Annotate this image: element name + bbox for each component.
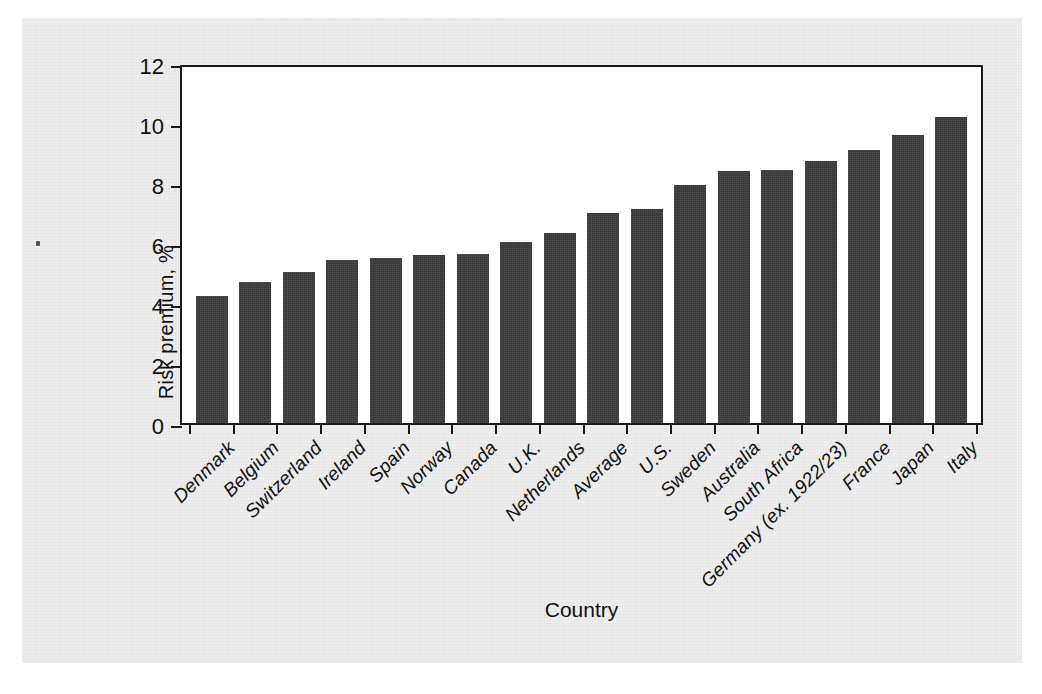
bar-slot: [625, 67, 669, 423]
bar-slot: [234, 67, 278, 423]
x-axis-tick-mark: [976, 423, 978, 434]
x-axis-tick-mark: [189, 423, 191, 434]
bar-slot: [843, 67, 887, 423]
bar-slot: [538, 67, 582, 423]
y-axis-tick-label: 10: [140, 116, 171, 138]
bar: [761, 170, 793, 424]
bar: [674, 185, 706, 424]
bar: [935, 117, 967, 423]
x-axis-tick-mark: [320, 423, 322, 434]
figure-page: Risk premium, % 024681012 DenmarkBelgium…: [0, 0, 1042, 694]
bar-slot: [451, 67, 495, 423]
bar: [283, 272, 315, 424]
bar: [848, 150, 880, 423]
bar: [805, 161, 837, 424]
y-axis-tick-mark: [171, 306, 182, 308]
plot-area: Risk premium, % 024681012: [180, 65, 983, 425]
x-axis-tick-mark: [889, 423, 891, 434]
bar: [718, 171, 750, 423]
x-axis-tick-mark: [845, 423, 847, 434]
x-axis-tick-mark: [626, 423, 628, 434]
y-axis-tick-label: 6: [152, 236, 171, 258]
bar-slot: [408, 67, 452, 423]
y-axis-tick-label: 2: [152, 356, 171, 378]
y-axis-tick-mark: [171, 366, 182, 368]
bar: [196, 296, 228, 424]
bar: [631, 209, 663, 424]
x-axis-tick-mark: [801, 423, 803, 434]
y-axis-tick-label: 8: [152, 176, 171, 198]
x-axis-tick-mark: [714, 423, 716, 434]
y-axis-tick-mark: [171, 426, 182, 428]
bar-slot: [669, 67, 713, 423]
bar-slot: [712, 67, 756, 423]
y-axis-tick-mark: [171, 66, 182, 68]
x-axis-tick-mark: [583, 423, 585, 434]
y-axis-tick-label: 12: [140, 56, 171, 78]
y-axis-tick-mark: [171, 126, 182, 128]
x-axis-tick-mark: [408, 423, 410, 434]
bar: [326, 260, 358, 424]
bar-slot: [886, 67, 930, 423]
bar-slot: [495, 67, 539, 423]
y-axis-tick-mark: [171, 246, 182, 248]
bar: [413, 255, 445, 423]
x-axis-tick-mark: [932, 423, 934, 434]
bar-slot: [582, 67, 626, 423]
y-axis-tick-label: 0: [152, 416, 171, 438]
bar: [500, 242, 532, 424]
x-axis-tick-mark: [451, 423, 453, 434]
bar-slot: [277, 67, 321, 423]
bar-slot: [364, 67, 408, 423]
bar: [544, 233, 576, 424]
bar: [239, 282, 271, 423]
scan-speck-artifact: [36, 241, 40, 246]
y-axis-tick-label: 4: [152, 296, 171, 318]
x-axis-tick-mark: [495, 423, 497, 434]
x-axis-tick-mark: [757, 423, 759, 434]
bar-slot: [799, 67, 843, 423]
x-axis-tick-mark: [233, 423, 235, 434]
y-axis-tick-mark: [171, 186, 182, 188]
x-axis-tick-mark: [276, 423, 278, 434]
bar-slot: [930, 67, 974, 423]
x-axis-tick-mark: [539, 423, 541, 434]
x-axis-title: Country: [180, 598, 983, 622]
bar: [370, 258, 402, 423]
bar: [587, 213, 619, 423]
bar-slot: [756, 67, 800, 423]
bar-slot: [321, 67, 365, 423]
x-axis-tick-mark: [670, 423, 672, 434]
bar-slot: [190, 67, 234, 423]
bar: [457, 254, 489, 424]
bar-series: [182, 67, 981, 423]
x-axis-tick-mark: [364, 423, 366, 434]
bar: [892, 135, 924, 423]
